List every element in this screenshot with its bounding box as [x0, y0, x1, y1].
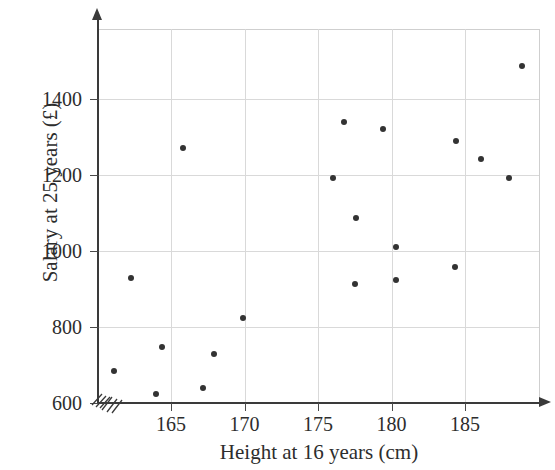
x-axis-tick-label: 180: [362, 414, 422, 434]
x-axis-tick-label: 170: [215, 414, 275, 434]
data-point: [111, 368, 117, 374]
x-axis-tick: [171, 403, 172, 411]
gridline-horizontal: [98, 99, 540, 100]
data-point: [159, 344, 165, 350]
x-axis-tick: [465, 403, 466, 411]
data-point: [180, 145, 186, 151]
data-point: [200, 385, 206, 391]
x-axis-title: Height at 16 years (cm): [98, 440, 540, 465]
x-axis-tick: [318, 403, 319, 411]
data-point: [393, 244, 399, 250]
gridline-horizontal: [98, 175, 540, 176]
x-axis-tick-label: 185: [435, 414, 495, 434]
y-axis-title: Salary at 25 years (£): [38, 43, 63, 343]
data-point: [128, 275, 134, 281]
y-axis-tick: [90, 99, 99, 100]
data-point: [330, 175, 336, 181]
scatter-plot-figure: 600800100012001400165170175180185 Salary…: [0, 0, 555, 470]
plot-area: [98, 29, 540, 403]
y-axis-tick: [90, 251, 99, 252]
data-point: [478, 156, 484, 162]
gridline-horizontal: [98, 327, 540, 328]
data-point: [153, 391, 159, 397]
x-axis-break-icon: [100, 390, 126, 414]
data-point: [341, 119, 347, 125]
x-axis-tick: [245, 403, 246, 411]
y-axis-line: [97, 18, 99, 404]
data-point: [506, 175, 512, 181]
gridline-vertical: [539, 29, 540, 403]
y-axis-tick-label: 600: [30, 393, 82, 413]
gridline-horizontal: [98, 29, 540, 30]
data-point: [211, 351, 217, 357]
data-point: [380, 126, 386, 132]
gridline-vertical: [465, 29, 466, 403]
gridline-vertical: [245, 29, 246, 403]
y-axis-tick: [90, 327, 99, 328]
data-point: [519, 63, 525, 69]
gridline-vertical: [392, 29, 393, 403]
gridline-vertical: [171, 29, 172, 403]
data-point: [452, 264, 458, 270]
data-point: [453, 138, 459, 144]
data-point: [352, 281, 358, 287]
x-axis-tick-label: 175: [288, 414, 348, 434]
x-axis-tick-label: 165: [141, 414, 201, 434]
cropped-header-text: [80, 0, 510, 5]
y-axis-tick: [90, 175, 99, 176]
data-point: [393, 277, 399, 283]
gridline-horizontal: [98, 251, 540, 252]
x-axis-tick: [392, 403, 393, 411]
data-point: [353, 215, 359, 221]
gridline-vertical: [318, 29, 319, 403]
x-axis-arrowhead: [539, 397, 551, 407]
y-axis-arrowhead: [92, 8, 102, 20]
